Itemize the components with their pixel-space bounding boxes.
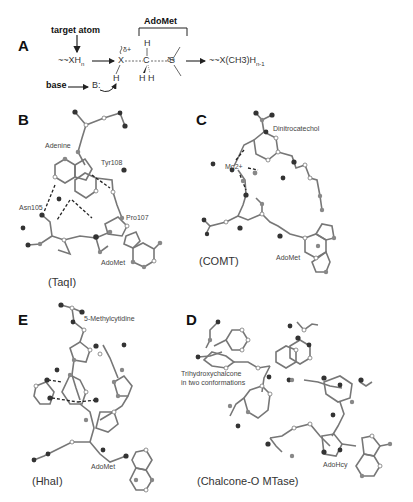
chalcone-mtase-structure bbox=[0, 0, 413, 502]
